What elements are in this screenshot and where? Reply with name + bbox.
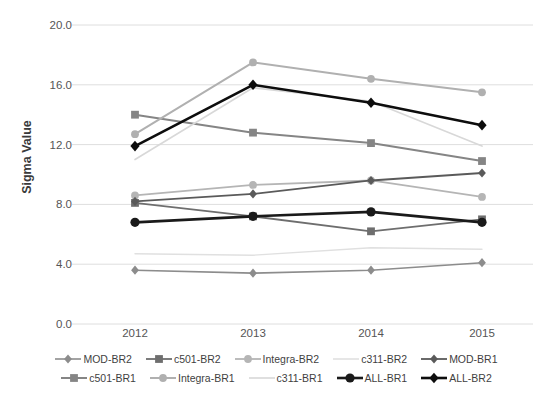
data-point xyxy=(477,120,486,131)
legend-item-integra-br2[interactable]: Integra-BR2 xyxy=(235,353,320,365)
legend-label: c501-BR1 xyxy=(89,372,136,384)
series-line xyxy=(135,248,482,255)
data-point xyxy=(367,266,375,275)
legend-item-mod-br1[interactable]: MOD-BR1 xyxy=(421,353,497,365)
series-c311-br2 xyxy=(135,248,482,255)
legend-swatch xyxy=(421,353,447,365)
legend-swatch xyxy=(150,372,176,384)
data-point xyxy=(367,139,375,147)
series-line xyxy=(135,173,482,201)
data-point xyxy=(249,58,257,66)
legend-swatch xyxy=(55,353,81,365)
series-mod-br1 xyxy=(131,168,486,206)
x-tick-label: 2014 xyxy=(336,327,406,339)
legend-swatch xyxy=(421,372,447,384)
legend-label: Integra-BR2 xyxy=(263,353,320,365)
data-point xyxy=(249,129,257,137)
data-point xyxy=(367,176,375,185)
chart-legend: MOD-BR2c501-BR2Integra-BR2c311-BR2MOD-BR… xyxy=(0,349,553,387)
legend-row-1: MOD-BR2c501-BR2Integra-BR2c311-BR2MOD-BR… xyxy=(0,349,553,368)
legend-label: MOD-BR2 xyxy=(83,353,131,365)
legend-item-integra-br1[interactable]: Integra-BR1 xyxy=(150,372,235,384)
data-point xyxy=(478,193,486,201)
data-point xyxy=(478,168,486,177)
data-point xyxy=(249,181,257,189)
data-point xyxy=(131,111,139,119)
legend-swatch xyxy=(61,372,87,384)
x-tick-label: 2015 xyxy=(447,327,517,339)
series-mod-br2 xyxy=(131,258,486,278)
legend-item-c311-br2[interactable]: c311-BR2 xyxy=(333,353,407,365)
legend-swatch xyxy=(146,353,172,365)
data-point xyxy=(477,218,486,227)
data-point xyxy=(131,266,139,275)
data-point xyxy=(131,130,139,138)
legend-item-c501-br2[interactable]: c501-BR2 xyxy=(146,353,221,365)
legend-label: MOD-BR1 xyxy=(449,353,497,365)
data-point xyxy=(249,189,257,198)
legend-item-c501-br1[interactable]: c501-BR1 xyxy=(61,372,136,384)
legend-item-c311-br1[interactable]: c311-BR1 xyxy=(249,372,323,384)
legend-label: c311-BR2 xyxy=(361,353,407,365)
legend-label: ALL-BR2 xyxy=(449,372,492,384)
data-point xyxy=(248,212,257,221)
series-all-br2 xyxy=(130,80,486,152)
data-point xyxy=(367,75,375,83)
series-line xyxy=(135,115,482,161)
data-point xyxy=(367,227,375,235)
data-point xyxy=(478,88,486,96)
legend-label: Integra-BR1 xyxy=(178,372,235,384)
data-point xyxy=(366,207,375,216)
plot-area xyxy=(0,0,553,405)
data-point xyxy=(249,269,257,278)
series-integra-br2 xyxy=(131,177,486,201)
series-line xyxy=(135,180,482,196)
legend-item-mod-br2[interactable]: MOD-BR2 xyxy=(55,353,131,365)
legend-row-2: c501-BR1Integra-BR1c311-BR1ALL-BR1ALL-BR… xyxy=(0,368,553,387)
legend-label: c501-BR2 xyxy=(174,353,221,365)
legend-swatch xyxy=(235,353,261,365)
legend-swatch xyxy=(333,353,359,365)
series-c311-br1 xyxy=(135,88,482,160)
legend-swatch xyxy=(249,372,275,384)
legend-label: c311-BR1 xyxy=(277,372,323,384)
data-point xyxy=(478,258,486,267)
data-point xyxy=(366,97,375,108)
series-line xyxy=(135,88,482,160)
data-point xyxy=(130,141,139,152)
legend-swatch xyxy=(337,372,363,384)
x-tick-label: 2013 xyxy=(218,327,288,339)
series-c501-br1 xyxy=(131,111,486,165)
legend-item-all-br2[interactable]: ALL-BR2 xyxy=(421,372,492,384)
sigma-value-line-chart: Sigma Value 0.04.08.012.016.020.0 201220… xyxy=(0,0,553,405)
data-point xyxy=(130,218,139,227)
series-line xyxy=(135,212,482,222)
data-point xyxy=(478,157,486,165)
legend-item-all-br1[interactable]: ALL-BR1 xyxy=(337,372,408,384)
legend-label: ALL-BR1 xyxy=(365,372,408,384)
x-tick-label: 2012 xyxy=(100,327,170,339)
